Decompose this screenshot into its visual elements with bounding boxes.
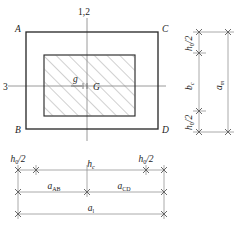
corner-label-d: D: [161, 125, 169, 135]
bottom-label-a-ab: aAB: [47, 181, 60, 192]
centroid-label-g-large: G: [93, 82, 100, 92]
axis-label-3: 3: [3, 82, 8, 92]
bottom-label-hc: hc: [87, 159, 95, 170]
right-label-am: am: [214, 80, 225, 90]
svg-text:am: am: [214, 80, 225, 90]
svg-text:h0/2: h0/2: [184, 115, 195, 130]
right-label-h0-half-bottom: h0/2: [184, 115, 195, 130]
plan-view-group: A C B D 1,2 3 g G: [3, 7, 169, 141]
svg-text:h0/2: h0/2: [184, 36, 195, 51]
right-dimension-group: h0/2 bc h0/2 am: [184, 29, 234, 135]
figure-canvas: A C B D 1,2 3 g G: [0, 0, 242, 234]
corner-label-c: C: [162, 24, 169, 34]
right-label-bc: bc: [184, 82, 195, 90]
right-dim-ticks: [196, 29, 231, 135]
bottom-label-h0-half-right: h0/2: [138, 154, 153, 165]
bottom-label-a-cd: aCD: [117, 181, 131, 192]
bottom-label-a-l: al: [88, 203, 95, 214]
technical-drawing-figure: A C B D 1,2 3 g G: [0, 0, 242, 234]
centroid-label-g-small: g: [73, 74, 78, 84]
svg-text:bc: bc: [184, 82, 195, 90]
axis-label-1-2: 1,2: [78, 7, 90, 17]
right-label-h0-half-top: h0/2: [184, 36, 195, 51]
bottom-label-h0-half-left: h0/2: [10, 154, 25, 165]
hatched-core-fill: [45, 56, 135, 116]
corner-label-b: B: [15, 125, 21, 135]
corner-label-a: A: [14, 24, 21, 34]
bottom-dimension-group: h0/2 hc h0/2 aAB aCD al: [10, 154, 167, 219]
